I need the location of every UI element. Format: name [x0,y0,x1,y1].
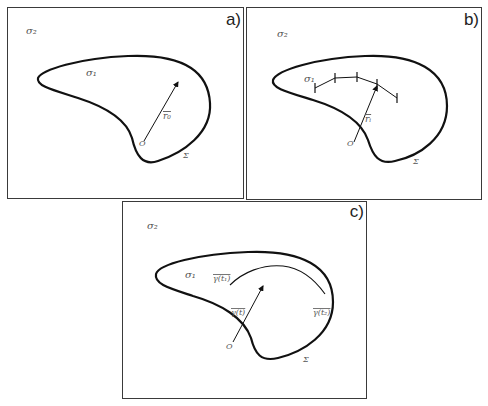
vector-label: r₀ [163,111,171,121]
curve-end-label: γ(t₂) [313,308,330,317]
boundary-sigma [273,56,447,162]
boundary-sigma [156,252,333,359]
boundary-label: Σ [302,355,309,364]
diagram-b: σ₂ σ₁ rᵢ O Σ [247,8,483,201]
panel-b: b) σ₂ σ₁ rᵢ O Σ [246,7,482,200]
parametric-curve [230,266,325,294]
discrete-trajectory [315,77,397,98]
inner-region-label: σ₁ [304,73,315,84]
diagram-c: σ₂ σ₁ γ(t₁) γ(t) γ(t₂) O Σ [123,202,368,400]
boundary-label: Σ [412,157,419,166]
position-vector [144,82,178,141]
outer-region-label: σ₂ [277,28,288,39]
origin-label: O [226,342,233,351]
vector-label: γ(t) [231,308,245,317]
curve-start-label: γ(t₁) [213,274,230,283]
panel-c: c) σ₂ σ₁ γ(t₁) γ(t) γ(t₂) O Σ [122,201,367,399]
vector-label: rᵢ [365,114,371,124]
origin-label: O [347,139,354,148]
outer-region-label: σ₂ [147,220,158,231]
inner-region-label: σ₁ [185,269,196,280]
origin-label: O [139,139,146,148]
diagram-a: σ₂ σ₁ r₀ O Σ [8,8,245,200]
inner-region-label: σ₁ [86,67,97,78]
panel-a: a) σ₂ σ₁ r₀ O Σ [7,7,244,199]
outer-region-label: σ₂ [26,25,37,36]
boundary-label: Σ [182,151,189,160]
boundary-sigma [38,56,210,162]
